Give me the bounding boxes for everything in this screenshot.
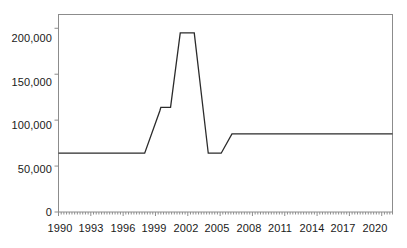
y-axis-ticks bbox=[55, 28, 59, 212]
x-axis-minor-ticks bbox=[59, 212, 393, 216]
plot-area bbox=[0, 0, 407, 248]
data-series-line bbox=[59, 33, 393, 153]
plot-frame bbox=[59, 15, 393, 213]
line-chart: 200,000 150,000 100,000 50,000 0 1990 19… bbox=[0, 0, 407, 248]
plot-border bbox=[59, 15, 393, 213]
